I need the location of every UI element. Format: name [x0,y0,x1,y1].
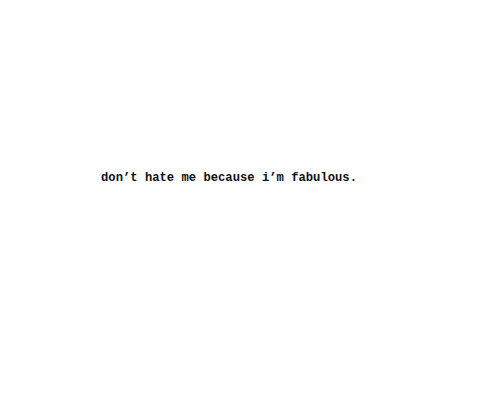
quote-text: don’t hate me because i’m fabulous. [101,170,357,186]
